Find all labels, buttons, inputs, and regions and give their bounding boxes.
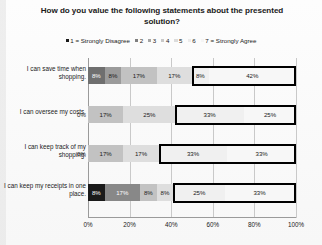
- bar-segment[interactable]: 17%: [123, 145, 158, 162]
- bar-segment[interactable]: 25%: [123, 106, 175, 123]
- chart-title: How do you value the following statement…: [26, 6, 298, 27]
- bar-segment[interactable]: 17%: [105, 184, 140, 201]
- legend-label: 6: [192, 37, 195, 44]
- category-label: I can oversee my costs.: [2, 108, 86, 116]
- bar-segment[interactable]: 33%: [227, 145, 296, 162]
- legend-label: 4: [166, 37, 169, 44]
- bar-segment[interactable]: 17%: [121, 67, 156, 84]
- x-tick-label: 100%: [288, 221, 304, 228]
- bar-segment[interactable]: 8%: [140, 184, 157, 201]
- bar-segment[interactable]: 8%: [157, 184, 174, 201]
- bar-row[interactable]: 8%17%8%8%25%33%: [88, 184, 296, 201]
- bar-segment[interactable]: 17%: [157, 67, 192, 84]
- legend-label: 1 = Strongly Disagree: [70, 37, 130, 44]
- x-tick-label: 40%: [165, 221, 178, 228]
- x-tick-label: 0%: [83, 221, 92, 228]
- bar-segment[interactable]: 33%: [175, 106, 244, 123]
- stacked-bar-chart: How do you value the following statement…: [0, 0, 322, 245]
- x-tick-label: 20%: [123, 221, 136, 228]
- category-label: I can keep my receipts in one place.: [2, 182, 86, 197]
- bar-segment[interactable]: 25%: [173, 184, 225, 201]
- bar-segment[interactable]: 33%: [225, 184, 294, 201]
- legend-swatch-icon: [66, 39, 69, 42]
- category-label: I can save time when shopping.: [2, 65, 86, 80]
- bar-segment[interactable]: 25%: [244, 106, 296, 123]
- legend-item-7[interactable]: 7 = Strongly Agree: [201, 37, 257, 44]
- legend-swatch-icon: [148, 39, 151, 42]
- stacked-bar: 17%25%33%25%: [88, 106, 296, 123]
- legend-swatch-icon: [188, 39, 191, 42]
- legend-swatch-icon: [201, 39, 204, 42]
- plot-area: 8%8%17%17%8%42%0%17%25%33%25%0%17%17%33%…: [88, 58, 296, 218]
- x-tick-label: 80%: [248, 221, 261, 228]
- stacked-bar: 17%17%33%33%: [88, 145, 296, 162]
- legend-label: 3: [153, 37, 156, 44]
- bar-segment[interactable]: 8%: [88, 184, 105, 201]
- legend-label: 5: [179, 37, 182, 44]
- legend-label: 7 = Strongly Agree: [205, 37, 256, 44]
- legend-swatch-icon: [135, 39, 138, 42]
- stacked-bar: 8%8%17%17%8%42%: [88, 67, 296, 84]
- bar-row[interactable]: 17%25%33%25%: [88, 106, 296, 123]
- legend-label: 2: [140, 37, 143, 44]
- segment-value-label: 0%: [77, 150, 86, 157]
- bar-segment[interactable]: 42%: [209, 67, 296, 84]
- legend-item-6[interactable]: 6: [188, 37, 196, 44]
- bar-segment[interactable]: 8%: [105, 67, 122, 84]
- bar-segment[interactable]: 33%: [159, 145, 228, 162]
- x-axis-tick-labels: 0%20%40%60%80%100%: [88, 221, 296, 233]
- legend-item-2[interactable]: 2: [135, 37, 143, 44]
- gridline-100: [296, 58, 297, 218]
- bar-segment[interactable]: 17%: [88, 106, 123, 123]
- bar-segment[interactable]: 17%: [88, 145, 123, 162]
- legend-item-3[interactable]: 3: [148, 37, 156, 44]
- segment-value-label: 0%: [77, 111, 86, 118]
- legend-item-5[interactable]: 5: [174, 37, 182, 44]
- bar-rows: 8%8%17%17%8%42%0%17%25%33%25%0%17%17%33%…: [88, 58, 296, 218]
- bar-segment[interactable]: 8%: [192, 67, 209, 84]
- x-tick-label: 60%: [206, 221, 219, 228]
- category-axis-labels: I can save time when shopping.I can over…: [2, 58, 86, 218]
- legend-swatch-icon: [161, 39, 164, 42]
- legend-item-4[interactable]: 4: [161, 37, 169, 44]
- legend-item-1[interactable]: 1 = Strongly Disagree: [66, 37, 130, 44]
- stacked-bar: 8%17%8%8%25%33%: [88, 184, 296, 201]
- chart-legend: 1 = Strongly Disagree234567 = Strongly A…: [30, 37, 292, 44]
- category-label: I can keep track of my shopping.: [2, 143, 86, 158]
- legend-swatch-icon: [174, 39, 177, 42]
- bar-row[interactable]: 17%17%33%33%: [88, 145, 296, 162]
- bar-segment[interactable]: 8%: [88, 67, 105, 84]
- bar-row[interactable]: 8%8%17%17%8%42%: [88, 67, 296, 84]
